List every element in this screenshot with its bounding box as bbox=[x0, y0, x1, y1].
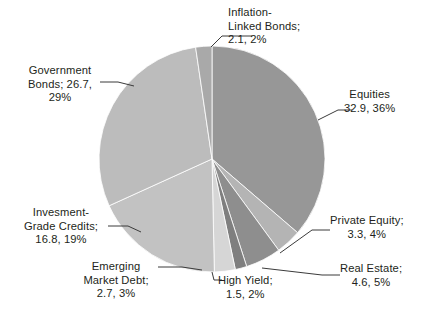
slice-label-line: 16.8, 19% bbox=[2, 233, 120, 247]
slice-label-line: 1.5, 2% bbox=[218, 288, 273, 302]
slice-label-line: Equities bbox=[344, 88, 395, 102]
slice-label-line: Invesment- bbox=[2, 206, 120, 220]
slice-label-government-bonds: Government Bonds; 26.7, 29% bbox=[8, 64, 112, 105]
slice-label-line: Market Debt; bbox=[68, 274, 164, 288]
slice-label-invesment-grade-credits: Invesment- Grade Credits; 16.8, 19% bbox=[2, 206, 120, 247]
slice-label-line: Grade Credits; bbox=[2, 220, 120, 234]
slice-label-line: 29% bbox=[8, 91, 112, 105]
slice-label-emerging-market-debt: Emerging Market Debt; 2.7, 3% bbox=[68, 260, 164, 301]
slice-label-line: Private Equity; bbox=[330, 214, 404, 228]
slice-label-line: Government bbox=[8, 64, 112, 78]
slice-label-line: Real Estate; bbox=[340, 262, 402, 276]
pie-slices-group bbox=[99, 46, 325, 272]
slice-label-line: 2.7, 3% bbox=[68, 287, 164, 301]
slice-label-line: 32.9, 36% bbox=[344, 102, 395, 116]
slice-label-equities: Equities 32.9, 36% bbox=[344, 88, 395, 115]
slice-label-high-yield: High Yield; 1.5, 2% bbox=[218, 274, 273, 301]
slice-label-real-estate: Real Estate; 4.6, 5% bbox=[340, 262, 402, 289]
leader-line-real-estate bbox=[262, 268, 340, 275]
slice-label-line: High Yield; bbox=[218, 274, 273, 288]
slice-label-line: Emerging bbox=[68, 260, 164, 274]
slice-label-line: 3.3, 4% bbox=[330, 228, 404, 242]
slice-label-line: Bonds; 26.7, bbox=[8, 78, 112, 92]
slice-label-line: 4.6, 5% bbox=[340, 276, 402, 290]
slice-label-private-equity: Private Equity; 3.3, 4% bbox=[330, 214, 404, 241]
pie-chart: Inflation- Linked Bonds; 2.1, 2% Equitie… bbox=[0, 0, 426, 322]
